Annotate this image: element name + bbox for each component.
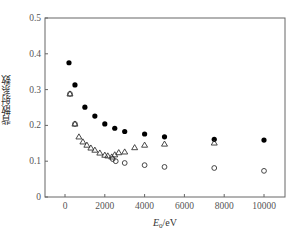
y-tick-label: 0 [36, 192, 41, 202]
y-tick-label: 0.1 [29, 156, 41, 166]
x-tick-label: 6000 [175, 201, 194, 211]
plot-frame [45, 18, 285, 197]
open-triangle-marker [116, 150, 122, 155]
filled-circle-marker [102, 121, 107, 126]
x-tick-label: 10000 [252, 201, 276, 211]
data-points [66, 60, 266, 173]
filled-circle-marker [122, 129, 127, 134]
open-triangle-marker [162, 141, 168, 146]
x-tick-label: 2000 [95, 201, 114, 211]
y-axis-title: 背散射系数 [1, 60, 15, 140]
open-circle-marker [122, 161, 127, 166]
filled-circle-marker [261, 137, 266, 142]
y-tick-label: 0.5 [29, 13, 41, 23]
filled-circle-marker [112, 126, 117, 131]
open-triangle-marker [142, 142, 148, 147]
y-tick-label: 0.2 [29, 120, 41, 130]
open-circle-marker [142, 163, 147, 168]
x-tick-label: 0 [63, 201, 68, 211]
open-circle-marker [212, 166, 217, 171]
open-triangle-marker [76, 134, 82, 139]
filled-circle-marker [72, 82, 77, 87]
open-triangle-marker [80, 139, 86, 144]
filled-circle-marker [92, 113, 97, 118]
open-circle-marker [162, 165, 167, 170]
filled-circle-marker [82, 105, 87, 110]
open-triangle-marker [132, 145, 138, 150]
open-triangle-marker [122, 149, 128, 154]
y-tick-label: 0.4 [29, 49, 41, 59]
x-tick-label: 4000 [135, 201, 154, 211]
filled-circle-marker [66, 60, 71, 65]
x-axis-title: E0/eV [152, 217, 178, 230]
filled-circle-marker [162, 134, 167, 139]
x-tick-label: 8000 [215, 201, 234, 211]
filled-circle-marker [142, 131, 147, 136]
scatter-chart: 00.10.20.30.40.5 0200040006000800010000 … [0, 0, 294, 233]
y-tick-label: 0.3 [29, 85, 41, 95]
open-circle-marker [262, 168, 267, 173]
